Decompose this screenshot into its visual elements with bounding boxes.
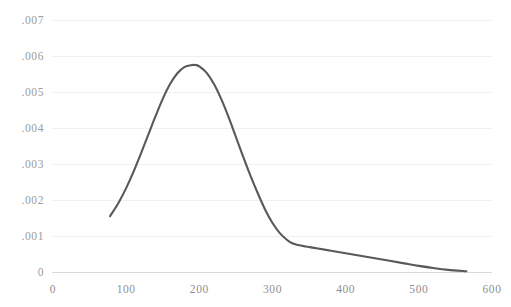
data-series-group (110, 65, 466, 271)
y-axis-tick-label: .005 (0, 86, 44, 98)
x-axis-tick-label: 600 (462, 283, 511, 295)
x-axis-tick-label: 400 (316, 283, 376, 295)
x-axis-tick-label: 300 (243, 283, 303, 295)
x-axis-tick-label: 0 (23, 283, 83, 295)
y-axis-tick-label: 0 (0, 266, 44, 278)
y-axis-tick-label: .004 (0, 122, 44, 134)
y-axis-tick-label: .001 (0, 230, 44, 242)
chart-container: .007.006.005.004.003.002.0010 0100200300… (0, 0, 511, 307)
plot-area (0, 0, 511, 307)
y-axis-tick-label: .003 (0, 158, 44, 170)
y-axis-tick-label: .007 (0, 14, 44, 26)
x-axis-tick-label: 100 (96, 283, 156, 295)
y-axis-tick-label: .006 (0, 50, 44, 62)
x-axis-tick-label: 500 (389, 283, 449, 295)
x-axis-tick-label: 200 (169, 283, 229, 295)
y-axis-tick-label: .002 (0, 194, 44, 206)
data-line-density (110, 65, 466, 271)
gridlines (52, 20, 492, 272)
